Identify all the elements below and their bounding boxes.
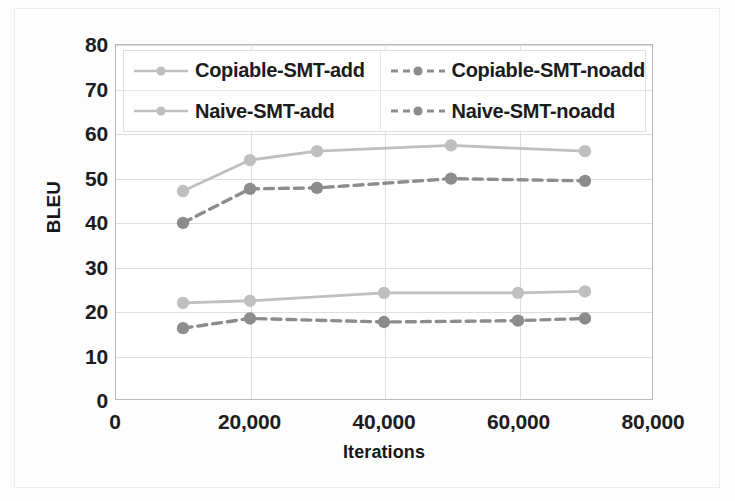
y-axis-tick-label: 10 — [62, 345, 108, 366]
x-axis-title: Iterations — [115, 442, 653, 463]
data-point-marker — [177, 297, 189, 309]
x-axis-tick-label: 80,000 — [621, 411, 684, 432]
data-point-marker — [378, 316, 390, 328]
legend-swatch-naive-smt-noadd — [390, 102, 446, 120]
chart-legend: Copiable-SMT-add Copiable-SMT-noadd Naiv… — [123, 50, 646, 132]
legend-swatch-naive-smt-add — [133, 102, 189, 120]
x-axis-tick-label: 40,000 — [352, 411, 415, 432]
data-point-marker — [311, 145, 323, 157]
legend-item-copiable-smt-noadd[interactable]: Copiable-SMT-noadd — [381, 51, 645, 91]
y-axis-tick-label: 80 — [62, 34, 108, 55]
x-axis-tick-labels: 020,00040,00060,00080,000 — [115, 411, 653, 439]
data-point-marker — [177, 217, 189, 229]
x-axis-tick-label: 20,000 — [218, 411, 281, 432]
legend-label: Naive-SMT-add — [195, 100, 334, 123]
series-naive-smt-add — [177, 285, 591, 309]
data-point-marker — [177, 322, 189, 334]
plot-area: Copiable-SMT-add Copiable-SMT-noadd Naiv… — [115, 44, 653, 400]
y-axis-tick-label: 0 — [62, 390, 108, 411]
legend-swatch-copiable-smt-noadd — [390, 62, 446, 80]
data-point-marker — [244, 312, 256, 324]
data-point-marker — [579, 175, 591, 187]
y-axis-title: BLEU — [43, 147, 65, 267]
data-point-marker — [512, 315, 524, 327]
legend-item-copiable-smt-add[interactable]: Copiable-SMT-add — [124, 51, 381, 91]
data-point-marker — [378, 287, 390, 299]
data-point-marker — [579, 145, 591, 157]
y-axis-tick-label: 30 — [62, 256, 108, 277]
y-axis-tick-label: 40 — [62, 212, 108, 233]
y-axis-tick-label: 60 — [62, 123, 108, 144]
data-point-marker — [579, 312, 591, 324]
data-point-marker — [244, 295, 256, 307]
legend-label: Copiable-SMT-add — [195, 59, 365, 82]
data-point-marker — [244, 154, 256, 166]
y-axis-tick-label: 50 — [62, 167, 108, 188]
data-point-marker — [445, 172, 457, 184]
legend-item-naive-smt-noadd[interactable]: Naive-SMT-noadd — [381, 91, 645, 131]
legend-label: Copiable-SMT-noadd — [452, 59, 645, 82]
legend-swatch-copiable-smt-add — [133, 62, 189, 80]
data-point-marker — [512, 287, 524, 299]
series-line — [183, 179, 585, 223]
data-point-marker — [579, 285, 591, 297]
y-axis-tick-label: 20 — [62, 301, 108, 322]
data-point-marker — [177, 185, 189, 197]
data-point-marker — [311, 182, 323, 194]
x-axis-tick-label: 60,000 — [487, 411, 550, 432]
y-axis-tick-label: 70 — [62, 78, 108, 99]
series-copiable-smt-noadd — [177, 172, 591, 229]
chart-figure: 01020304050607080 BLEU Copiable-SMT-add … — [0, 0, 735, 501]
series-copiable-smt-add — [177, 139, 591, 197]
series-naive-smt-noadd — [177, 312, 591, 334]
data-point-marker — [445, 139, 457, 151]
legend-item-naive-smt-add[interactable]: Naive-SMT-add — [124, 91, 381, 131]
legend-label: Naive-SMT-noadd — [452, 100, 615, 123]
data-point-marker — [244, 183, 256, 195]
x-axis-tick-label: 0 — [109, 411, 120, 432]
